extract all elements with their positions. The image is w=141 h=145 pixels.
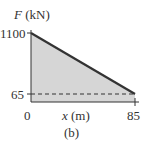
y-axis-unit: (kN) [25,7,50,22]
x-tick-label-0: 0 [24,109,31,122]
y-tick-label-1100: 1100 [0,27,26,40]
y-tick-label-65: 65 [11,88,24,101]
x-axis-unit: (m) [71,108,90,123]
figure-caption: (b) [64,126,79,139]
x-axis-var: x [62,108,68,123]
x-axis-label: x (m) [62,109,90,122]
x-tick-label-85: 85 [127,109,140,122]
y-axis-label: F (kN) [14,8,50,21]
y-axis-var: F [14,7,22,22]
